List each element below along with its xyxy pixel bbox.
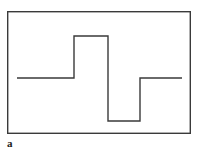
figure-panel: a bbox=[0, 0, 203, 156]
waveform-plot bbox=[0, 0, 203, 156]
panel-label: a bbox=[7, 137, 13, 150]
plot-frame-border bbox=[8, 12, 191, 134]
